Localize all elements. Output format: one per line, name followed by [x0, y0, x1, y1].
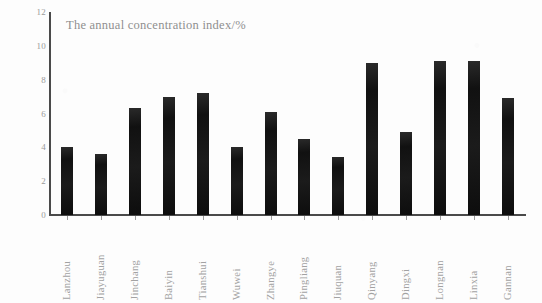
x-axis-tick — [271, 216, 272, 220]
x-axis-tick-label: Tianshui — [197, 261, 208, 300]
x-axis-tick-label: Baiyin — [163, 270, 174, 300]
x-axis-tick — [67, 216, 68, 220]
bar — [163, 97, 175, 215]
x-axis-tick — [135, 216, 136, 220]
x-axis-tick-label: Pingliang — [298, 257, 309, 300]
y-axis-tick-label: 8 — [26, 75, 46, 84]
x-axis-label-slot: Jiuquan — [332, 222, 344, 300]
x-axis-tick-label: Wuwei — [231, 268, 242, 300]
x-axis-tick — [474, 216, 475, 220]
x-axis-tick-label: Lanzhou — [61, 261, 72, 300]
x-axis-label-slot: Longnan — [434, 222, 446, 300]
x-axis-tick-label: Longnan — [434, 260, 445, 300]
x-axis-label-slot: Jinchang — [129, 222, 141, 300]
x-axis-tick — [406, 216, 407, 220]
bar — [400, 132, 412, 215]
bar — [434, 61, 446, 215]
x-axis-tick-label: Jiuquan — [332, 265, 343, 300]
x-axis-tick-label: Qinyang — [366, 261, 377, 300]
x-axis-tick-label: Gannan — [502, 265, 513, 300]
y-axis-tick-labels: 024681012 — [22, 12, 46, 216]
x-axis-tick — [508, 216, 509, 220]
y-axis-tick-label: 4 — [26, 143, 46, 152]
x-axis-label-slot: Baiyin — [163, 222, 175, 300]
y-axis-tick-label: 2 — [26, 177, 46, 186]
x-axis-label-slot: Dingxi — [400, 222, 412, 300]
bar — [95, 154, 107, 215]
bar — [265, 112, 277, 215]
x-axis-tick-label: Zhangye — [265, 261, 276, 300]
y-axis-tick-label: 6 — [26, 109, 46, 118]
bar-chart: 024681012 The annual concentration index… — [0, 0, 542, 303]
bar — [231, 147, 243, 215]
x-axis-tick — [169, 216, 170, 220]
bar — [502, 98, 514, 215]
x-axis-tick — [440, 216, 441, 220]
x-axis-label-slot: Jiayuguan — [95, 222, 107, 300]
x-axis-label-slot: Zhangye — [265, 222, 277, 300]
x-axis-tick-label: Dingxi — [400, 269, 411, 300]
bar — [129, 108, 141, 215]
x-axis-label-slot: Linxia — [468, 222, 480, 300]
bar — [332, 157, 344, 215]
x-axis-label-slot: Qinyang — [366, 222, 378, 300]
x-axis-ticks — [50, 216, 525, 221]
x-axis-tick — [304, 216, 305, 220]
x-axis-category-labels: LanzhouJiayuguanJinchangBaiyinTianshuiWu… — [50, 222, 525, 302]
bar — [197, 93, 209, 215]
x-axis-tick-label: Jinchang — [129, 260, 140, 300]
bars-container — [50, 12, 525, 215]
bar — [366, 63, 378, 215]
y-axis-tick-label: 0 — [26, 211, 46, 220]
y-axis-tick-label: 10 — [26, 41, 46, 50]
x-axis-label-slot: Gannan — [502, 222, 514, 300]
x-axis-tick-label: Linxia — [468, 270, 479, 300]
x-axis-label-slot: Pingliang — [298, 222, 310, 300]
x-axis-tick-label: Jiayuguan — [95, 254, 106, 300]
y-axis-tick-label: 12 — [26, 8, 46, 17]
bar — [298, 139, 310, 215]
x-axis-label-slot: Lanzhou — [61, 222, 73, 300]
x-axis-label-slot: Wuwei — [231, 222, 243, 300]
x-axis-tick — [203, 216, 204, 220]
x-axis-tick — [101, 216, 102, 220]
x-axis-tick — [372, 216, 373, 220]
x-axis-tick — [237, 216, 238, 220]
x-axis-tick — [338, 216, 339, 220]
bar — [468, 61, 480, 215]
x-axis-label-slot: Tianshui — [197, 222, 209, 300]
bar — [61, 147, 73, 215]
